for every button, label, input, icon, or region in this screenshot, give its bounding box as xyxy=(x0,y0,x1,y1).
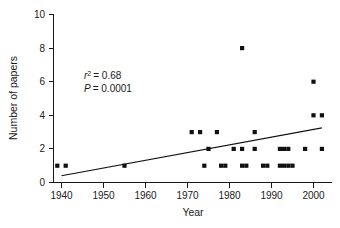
data-point xyxy=(64,164,68,168)
data-point xyxy=(286,147,290,151)
statistics-annotation: r2= 0.68 P= 0.0001 xyxy=(84,70,132,95)
x-tick-label-1980: 1980 xyxy=(218,190,241,201)
data-point xyxy=(278,164,282,168)
y-tick-label-0: 0 xyxy=(39,177,45,188)
r-squared-exponent: 2 xyxy=(87,70,91,77)
data-point xyxy=(240,46,244,50)
data-point xyxy=(311,113,315,117)
chart-canvas: 0 2 4 6 8 10 1940 1950 1960 1970 1980 19… xyxy=(0,0,340,228)
data-point xyxy=(215,130,219,134)
x-tick-label-1950: 1950 xyxy=(92,190,115,201)
data-point xyxy=(122,164,126,168)
data-point xyxy=(286,164,290,168)
x-axis-tick-labels: 1940 1950 1960 1970 1980 1990 2000 xyxy=(50,190,325,201)
data-point xyxy=(240,164,244,168)
y-tick-label-8: 8 xyxy=(39,43,45,54)
data-point xyxy=(265,164,269,168)
data-point xyxy=(311,80,315,84)
data-point xyxy=(253,130,257,134)
y-axis-title: Number of papers xyxy=(7,56,19,140)
regression-line xyxy=(62,128,322,176)
data-point xyxy=(190,130,194,134)
p-value: = 0.0001 xyxy=(93,83,133,94)
data-point xyxy=(223,164,227,168)
data-point xyxy=(240,147,244,151)
y-tick-label-6: 6 xyxy=(39,76,45,87)
y-tick-label-10: 10 xyxy=(34,9,46,20)
data-point xyxy=(244,164,248,168)
data-point xyxy=(219,164,223,168)
data-point xyxy=(202,164,206,168)
data-point xyxy=(206,147,210,151)
data-point xyxy=(303,147,307,151)
x-tick-label-1970: 1970 xyxy=(176,190,199,201)
r-squared-annotation: r2= 0.68 xyxy=(84,70,122,82)
data-point xyxy=(320,147,324,151)
data-point xyxy=(232,147,236,151)
data-point xyxy=(290,164,294,168)
data-point xyxy=(198,130,202,134)
y-axis-tick-labels: 0 2 4 6 8 10 xyxy=(34,9,46,188)
scatter-plot-figure: 0 2 4 6 8 10 1940 1950 1960 1970 1980 19… xyxy=(0,0,340,228)
data-point xyxy=(253,147,257,151)
x-tick-label-2000: 2000 xyxy=(302,190,325,201)
x-axis-title: Year xyxy=(182,206,204,218)
x-tick-label-1960: 1960 xyxy=(134,190,157,201)
x-tick-label-1940: 1940 xyxy=(50,190,73,201)
x-axis-ticks xyxy=(62,183,314,188)
data-point xyxy=(320,113,324,117)
y-axis-ticks xyxy=(49,15,54,183)
r-squared-value: = 0.68 xyxy=(93,70,122,81)
data-point xyxy=(282,164,286,168)
p-value-annotation: P= 0.0001 xyxy=(84,83,132,94)
x-tick-label-1990: 1990 xyxy=(260,190,283,201)
y-tick-label-4: 4 xyxy=(39,110,45,121)
data-point xyxy=(282,147,286,151)
p-symbol: P xyxy=(84,83,91,94)
y-tick-label-2: 2 xyxy=(39,143,45,154)
data-point-markers xyxy=(55,46,324,168)
data-point xyxy=(278,147,282,151)
data-point xyxy=(55,164,59,168)
data-point xyxy=(261,164,265,168)
